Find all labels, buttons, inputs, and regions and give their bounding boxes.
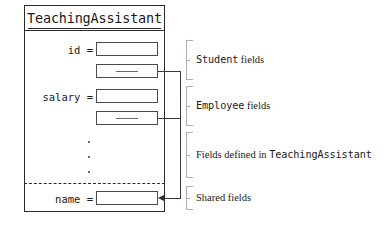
field-slot-id xyxy=(96,42,158,56)
field-slot-employee-ref xyxy=(96,111,158,125)
arrow-head-icon xyxy=(158,195,164,201)
annotation-serif-text: fields xyxy=(247,100,270,111)
annotation-serif-text: fields xyxy=(241,54,264,65)
diagram-canvas: TeachingAssistant id = salary = name = S… xyxy=(0,0,386,225)
annotation-mono-text: Employee xyxy=(196,100,244,111)
ellipsis-dot xyxy=(88,171,90,173)
annotation-employee-fields: Employee fields xyxy=(196,100,270,112)
shared-fields-divider xyxy=(24,183,165,184)
connector-employee-horizontal xyxy=(158,118,180,119)
annotation-student-fields: Student fields xyxy=(196,54,264,66)
annotation-serif-text: Fields defined in xyxy=(196,149,267,160)
annotation-declared-fields: Fields defined in TeachingAssistant xyxy=(196,149,372,161)
field-slot-name xyxy=(96,191,158,205)
field-label-salary: salary = xyxy=(37,91,93,103)
ellipsis-dot xyxy=(88,156,90,158)
class-name-title: TeachingAssistant xyxy=(28,8,161,29)
connector-to-name-slot xyxy=(164,198,181,199)
reference-mark xyxy=(116,118,138,119)
ellipsis-dot xyxy=(88,141,90,143)
brace-tick xyxy=(186,60,190,61)
field-slot-student-ref xyxy=(96,64,158,78)
field-label-name: name = xyxy=(48,193,93,205)
object-box xyxy=(24,5,165,212)
brace-tick xyxy=(186,106,190,107)
reference-mark xyxy=(116,71,138,72)
annotation-mono-text: Student xyxy=(196,54,238,65)
annotation-serif-text: Shared fields xyxy=(196,192,251,203)
connector-vertical-trunk xyxy=(180,71,181,198)
connector-student-horizontal xyxy=(158,71,180,72)
annotation-shared-fields: Shared fields xyxy=(196,192,251,204)
field-label-id: id = xyxy=(52,44,93,56)
field-slot-salary xyxy=(96,89,158,103)
brace-tick xyxy=(186,198,190,199)
brace-tick xyxy=(186,155,190,156)
annotation-mono-text: TeachingAssistant xyxy=(269,149,372,160)
